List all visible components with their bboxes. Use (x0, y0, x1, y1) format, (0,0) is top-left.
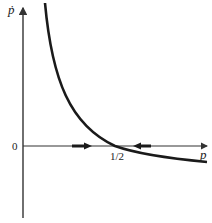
x-axis-label: p (199, 147, 207, 162)
flow-arrow-right-icon (72, 143, 92, 150)
equilibrium-label: 1/2 (110, 150, 124, 162)
phase-curve (45, 3, 207, 162)
y-axis-label: ṗ (7, 2, 15, 17)
phase-diagram: ṗ p 0 1/2 (0, 0, 212, 223)
flow-arrow-left-icon (133, 143, 151, 150)
origin-label: 0 (12, 140, 18, 152)
